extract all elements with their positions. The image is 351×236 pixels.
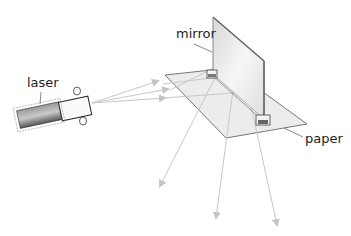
mirror-leader-line xyxy=(194,44,212,52)
mirror-stand-near xyxy=(207,70,217,78)
paper-leader-line xyxy=(284,128,303,137)
mirror-label: mirror xyxy=(176,26,216,41)
laser-pointer xyxy=(13,87,92,132)
paper-label: paper xyxy=(305,131,343,146)
laser-leader-line xyxy=(40,92,41,104)
incident-rays xyxy=(92,81,168,103)
laser-label: laser xyxy=(27,75,59,90)
mirror-stand-far xyxy=(256,115,270,125)
